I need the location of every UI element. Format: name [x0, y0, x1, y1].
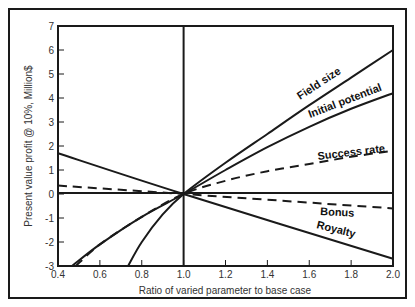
- y-tick-label: 0: [48, 189, 54, 200]
- x-tick-label: 1.0: [177, 269, 191, 280]
- x-tick-label: 1.4: [260, 269, 274, 280]
- y-tick-label: -1: [45, 213, 54, 224]
- y-axis-title: Present value profit @ 10%, Million$: [23, 65, 34, 227]
- y-tick-label: -2: [45, 237, 54, 248]
- x-tick-label: 0.4: [51, 269, 65, 280]
- x-axis: 0.40.60.81.01.21.41.61.82.0: [51, 260, 400, 280]
- y-tick-label: 6: [48, 45, 54, 56]
- label-field-size: Field size: [295, 65, 343, 102]
- label-bonus: Bonus: [320, 205, 355, 219]
- x-tick-label: 1.2: [219, 269, 233, 280]
- x-tick-label: 2.0: [386, 269, 400, 280]
- y-tick-label: 3: [48, 117, 54, 128]
- y-tick-label: 5: [48, 69, 54, 80]
- label-success-rate: Success rate: [317, 142, 386, 162]
- x-tick-label: 0.6: [93, 269, 107, 280]
- x-tick-label: 1.6: [302, 269, 316, 280]
- y-tick-label: 7: [48, 21, 54, 32]
- y-tick-label: 1: [48, 165, 54, 176]
- y-tick-label: 4: [48, 93, 54, 104]
- y-axis: -3-2-101234567: [45, 21, 64, 272]
- x-tick-label: 1.8: [344, 269, 358, 280]
- chart: -3-2-101234567 0.40.60.81.01.21.41.61.82…: [0, 0, 415, 307]
- y-tick-label: 2: [48, 141, 54, 152]
- x-axis-title: Ratio of varied parameter to base case: [139, 285, 312, 296]
- x-tick-label: 0.8: [135, 269, 149, 280]
- curve-bonus: [58, 186, 393, 209]
